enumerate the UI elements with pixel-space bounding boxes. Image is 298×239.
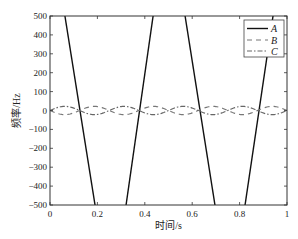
y-axis-label: 频率/Hz [10, 93, 22, 128]
y-tick-label: −400 [28, 181, 47, 191]
y-tick-label: 300 [34, 49, 48, 59]
y-tick-label: 500 [34, 11, 48, 21]
x-axis-label: 时间/s [155, 219, 182, 231]
legend-label-c: C [271, 46, 278, 57]
x-tick-label: 0 [48, 209, 53, 219]
series-a-segment [184, 7, 217, 215]
y-tick-label: −500 [28, 200, 47, 210]
y-tick-label: 200 [34, 68, 48, 78]
x-tick-label: 0.6 [187, 209, 199, 219]
y-tick-label: −200 [28, 143, 47, 153]
y-tick-label: 400 [34, 30, 48, 40]
x-tick-label: 0.2 [92, 209, 103, 219]
legend: A B C [244, 20, 284, 57]
y-tick-label: −100 [28, 124, 47, 134]
x-tick-label: 0.4 [139, 209, 151, 219]
y-tick-label: 0 [43, 106, 48, 116]
x-tick-label: 1 [285, 209, 290, 219]
legend-label-b: B [271, 35, 277, 46]
legend-label-a: A [270, 23, 278, 34]
line-chart: 00.20.40.60.815004003002001000−100−200−3… [0, 0, 298, 239]
x-tick-label: 0.8 [234, 209, 246, 219]
y-tick-label: 100 [34, 87, 48, 97]
y-tick-label: −300 [28, 162, 47, 172]
